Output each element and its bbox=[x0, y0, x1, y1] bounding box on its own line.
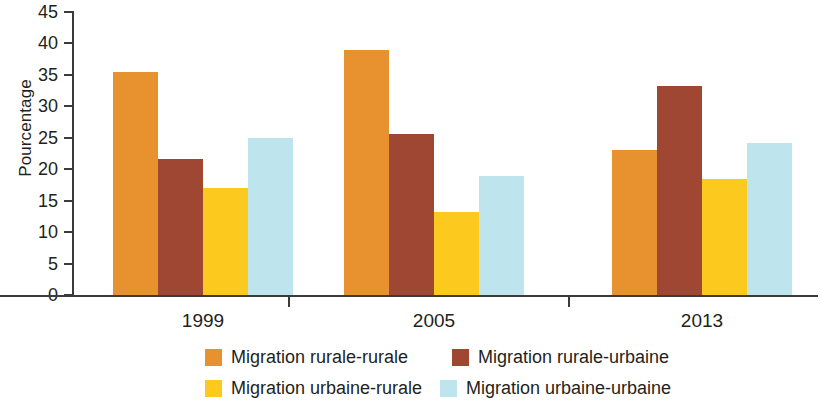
y-tick-label: 45 bbox=[22, 3, 58, 21]
bar bbox=[248, 138, 293, 295]
bar-group bbox=[612, 9, 792, 295]
y-tick-label: 10 bbox=[22, 223, 58, 241]
bar bbox=[344, 50, 389, 295]
legend-item[interactable]: Migration urbaine-urbaine bbox=[440, 374, 671, 402]
x-axis-separator-tick bbox=[568, 296, 570, 307]
bar bbox=[479, 176, 524, 295]
x-axis-label: 1999 bbox=[93, 310, 313, 332]
legend-swatch-icon bbox=[452, 349, 469, 366]
legend-label: Migration rurale-rurale bbox=[231, 347, 408, 368]
legend-item[interactable]: Migration rurale-rurale bbox=[205, 343, 408, 371]
y-tick-label: 40 bbox=[22, 34, 58, 52]
legend-label: Migration rurale-urbaine bbox=[478, 347, 669, 368]
y-tick-label: 30 bbox=[22, 97, 58, 115]
legend-item[interactable]: Migration urbaine-rurale bbox=[205, 374, 422, 402]
bar bbox=[657, 86, 702, 295]
legend-row-top: Migration rurale-ruraleMigration rurale-… bbox=[0, 343, 822, 371]
bar bbox=[612, 150, 657, 295]
legend-swatch-icon bbox=[440, 380, 457, 397]
bar bbox=[203, 188, 248, 295]
bar bbox=[113, 72, 158, 295]
bar-group bbox=[113, 9, 293, 295]
bar bbox=[702, 179, 747, 295]
bar-group bbox=[344, 9, 524, 295]
bar bbox=[434, 212, 479, 295]
legend-swatch-icon bbox=[205, 349, 222, 366]
y-tick-label: 15 bbox=[22, 192, 58, 210]
y-tick-label: 25 bbox=[22, 129, 58, 147]
bar-chart: Pourcentage 454035302520151050 199920052… bbox=[0, 0, 822, 409]
y-tick-label: 35 bbox=[22, 66, 58, 84]
x-axis-line bbox=[0, 295, 818, 297]
legend-item[interactable]: Migration rurale-urbaine bbox=[452, 343, 669, 371]
legend-label: Migration urbaine-urbaine bbox=[466, 378, 671, 399]
bar bbox=[389, 134, 434, 295]
bar bbox=[158, 159, 203, 295]
x-axis-separator-tick bbox=[288, 296, 290, 307]
y-tick-label: 5 bbox=[22, 255, 58, 273]
legend-row-bottom: Migration urbaine-ruraleMigration urbain… bbox=[0, 374, 822, 402]
y-tick-label: 20 bbox=[22, 160, 58, 178]
x-axis-label: 2005 bbox=[324, 310, 544, 332]
legend-label: Migration urbaine-rurale bbox=[231, 378, 422, 399]
x-axis-label: 2013 bbox=[592, 310, 812, 332]
y-axis-line bbox=[72, 11, 74, 296]
legend-swatch-icon bbox=[205, 380, 222, 397]
bar bbox=[747, 143, 792, 295]
